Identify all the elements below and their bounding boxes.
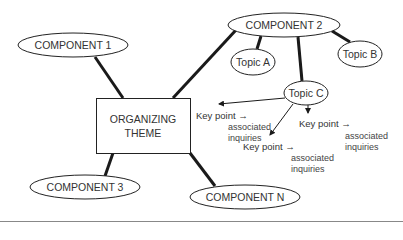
component-2-label: COMPONENT 2 [246,20,323,31]
inquiries-3: associated inquiries [345,131,388,153]
inquiries-2: associated inquiries [291,153,334,175]
inquiries-2-line-1: associated [291,153,334,164]
theme-line-2: THEME [110,126,177,140]
inquiries-2-line-2: inquiries [291,164,334,175]
connector-cn-theme [190,153,215,186]
component-1-label: COMPONENT 1 [35,40,112,51]
connector-c2-topicc [298,37,302,81]
inquiries-3-line-2: inquiries [345,142,388,153]
key-point-2-label: Key point → [243,142,295,152]
connector-c2-topica [257,36,261,49]
connector-c3-theme [105,153,113,176]
theme-line-1: ORGANIZING [110,112,177,126]
organizing-theme-label: ORGANIZING THEME [110,112,177,140]
key-point-1-label: Key point → [196,111,248,121]
inquiries-3-line-1: associated [345,131,388,142]
connector-c2-topicb [332,31,350,42]
topic-c-label: Topic C [288,88,323,99]
component-3-label: COMPONENT 3 [47,182,124,193]
arrow-keypoint-1 [219,98,285,104]
topic-a-label: Topic A [236,57,270,68]
inquiries-1-line-1: associated [228,122,271,133]
connector-c2-theme [173,30,236,98]
connector-c1-theme [95,57,123,98]
arrow-keypoint-2 [270,104,293,135]
topic-b-label: Topic B [343,49,377,60]
component-n-label: COMPONENT N [206,192,285,203]
key-point-3-label: Key point → [299,119,351,129]
